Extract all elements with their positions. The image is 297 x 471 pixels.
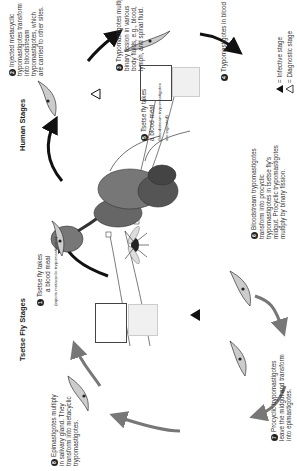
step-5-parasite-inset <box>172 67 200 97</box>
legend-infective-label: = Infective stage <box>276 37 283 83</box>
legend-infective-icon <box>276 85 283 93</box>
step-8-text: 8Epimastigotes multiply in salivary glan… <box>50 394 79 466</box>
step-1-text: 1Tsetse fly takes a blood meal (injects … <box>36 237 58 306</box>
step-1-number: 1 <box>37 299 44 306</box>
step-2-text-block: 2Injected metacyclic trypomastigotes tra… <box>8 3 45 76</box>
step-1-bite-box <box>95 303 127 343</box>
title-human-stages: Human Stages <box>18 99 27 151</box>
step-7-text: 7Procyclic trypomastigotes leave the mid… <box>270 354 292 441</box>
step-6-text: 6Bloodstream trypomastigotes transform i… <box>250 145 287 239</box>
life-cycle-diagram: Tsetse Fly Stages Human Stages 1Tsetse f… <box>0 0 297 471</box>
human-organs-illustration <box>51 131 190 252</box>
legend-diagnostic-icon <box>286 85 293 93</box>
step-3-text: 3Trypomastigotes multiply by binary fiss… <box>115 0 144 71</box>
infective-triangle-icon <box>190 309 200 321</box>
title-tsetse-fly-stages: Tsetse Fly Stages <box>18 298 27 361</box>
legend-diagnostic-label: = Diagnostic stage <box>286 31 293 83</box>
step-4-text: 4Trypomastigotes in blood <box>220 2 228 81</box>
step-1-parasite-inset <box>128 304 158 336</box>
step-5-text: 5Tsetse fly takes a blood meal (bloodstr… <box>140 83 169 141</box>
diagnostic-triangle-icon <box>91 89 100 99</box>
